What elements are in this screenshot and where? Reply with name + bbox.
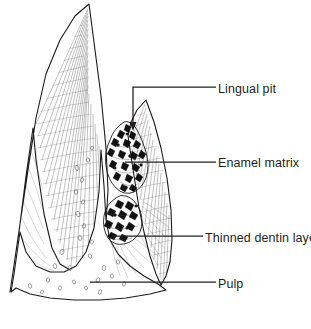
lingual-enamel-cusp — [128, 100, 172, 285]
tooth-diagram-svg: Lingual pit Enamel matrix Thinned dentin… — [0, 0, 311, 329]
carious-lesion-lower — [104, 195, 143, 244]
labels: Lingual pit Enamel matrix Thinned dentin… — [205, 82, 311, 291]
tooth-histology-figure: Lingual pit Enamel matrix Thinned dentin… — [0, 0, 311, 329]
label-pulp: Pulp — [218, 277, 243, 291]
label-enamel-matrix: Enamel matrix — [218, 156, 300, 170]
label-lingual-pit: Lingual pit — [218, 82, 277, 96]
label-thinned-dentin-layer: Thinned dentin layer — [205, 231, 311, 245]
